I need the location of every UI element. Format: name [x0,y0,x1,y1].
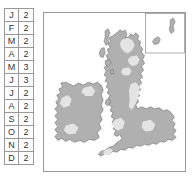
table-row: J 3 [5,74,34,87]
month-label: F [5,22,19,35]
month-value: 2 [19,139,34,152]
inset-box-border [146,13,185,53]
table-row: M 3 [5,61,34,74]
uist-islands [99,48,105,58]
table-row: J 2 [5,9,34,22]
ireland-coastline [55,82,103,142]
month-value: 2 [19,9,34,22]
month-label: M [5,61,19,74]
ireland-landmass [55,82,103,142]
month-label: A [5,48,19,61]
month-value: 2 [19,126,34,139]
month-value: 2 [19,100,34,113]
table-row: J 2 [5,87,34,100]
table-row: A 2 [5,48,34,61]
table-row: D 2 [5,152,34,165]
month-value: 3 [19,61,34,74]
table-row: S 2 [5,113,34,126]
month-label: N [5,139,19,152]
month-value: 2 [19,48,34,61]
monthly-value-table: J 2 F 2 M 2 A 2 M 3 J 3 J 2 A 2 [4,8,34,165]
month-label: J [5,9,19,22]
month-label: A [5,100,19,113]
month-value: 2 [19,113,34,126]
highland-region-pennines [129,82,140,110]
table-row: A 2 [5,100,34,113]
table-row: F 2 [5,22,34,35]
month-value: 2 [19,22,34,35]
monthly-value-table-body: J 2 F 2 M 2 A 2 M 3 J 3 J 2 A 2 [5,9,34,165]
map-panel [43,12,186,172]
northern-isles-inset [146,13,185,53]
month-label: D [5,152,19,165]
month-value: 2 [19,35,34,48]
month-value: 2 [19,152,34,165]
month-label: J [5,74,19,87]
arran-island [110,69,114,74]
month-label: S [5,113,19,126]
month-label: M [5,35,19,48]
month-label: J [5,87,19,100]
table-row: O 2 [5,126,34,139]
table-row: M 2 [5,35,34,48]
table-row: N 2 [5,139,34,152]
month-value: 2 [19,87,34,100]
british-isles-map [44,13,185,171]
month-value: 3 [19,74,34,87]
month-label: O [5,126,19,139]
